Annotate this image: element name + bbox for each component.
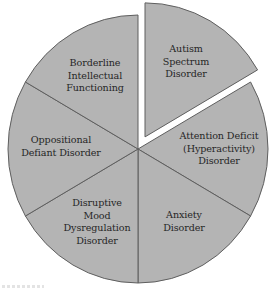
label-autism-spectrum-disorder: Autism Spectrum Disorder [163, 43, 210, 81]
label-attention-deficit-hyperactivity-disorder: Attention Deficit (Hyperactivity) Disord… [180, 130, 259, 168]
label-disruptive-mood-dysregulation-disorder: Disruptive Mood Dysregulation Disorder [64, 197, 131, 247]
cropped-caption [2, 285, 44, 288]
label-anxiety-disorder: Anxiety Disorder [163, 209, 205, 234]
label-borderline-intellectual-functioning: Borderline Intellectual Functioning [66, 57, 124, 95]
label-oppositional-defiant-disorder: Oppositional Defiant Disorder [21, 134, 101, 159]
